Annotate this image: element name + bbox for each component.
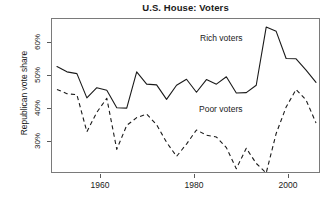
x-tick-label-2000: 2000 (279, 180, 298, 190)
rich-voters-line (57, 27, 316, 108)
y-tick-label-30: 30% (28, 136, 46, 146)
series-canvas (52, 19, 320, 173)
y-tick-label-50-text: 50% (33, 67, 42, 83)
y-tick-label-40: 40% (28, 103, 46, 113)
x-tick-mark-2000 (288, 174, 289, 178)
rich-voters-annotation: Rich voters (200, 33, 243, 43)
chart-title: U.S. House: Voters (51, 2, 320, 13)
x-tick-mark-1980 (194, 174, 195, 178)
y-tick-label-30-text: 30% (33, 133, 42, 149)
poor-voters-line (57, 89, 316, 172)
poor-voters-annotation: Poor voters (199, 104, 242, 114)
plot-area (51, 18, 320, 173)
y-tick-label-50: 50% (28, 70, 46, 80)
y-tick-label-60: 60% (28, 37, 46, 47)
chart-figure: U.S. House: Voters Republican vote share… (0, 0, 334, 208)
x-tick-mark-1960 (100, 174, 101, 178)
y-tick-label-40-text: 40% (33, 100, 42, 116)
x-tick-label-1960: 1960 (91, 180, 110, 190)
x-tick-label-1980: 1980 (185, 180, 204, 190)
y-tick-label-60-text: 60% (33, 34, 42, 50)
